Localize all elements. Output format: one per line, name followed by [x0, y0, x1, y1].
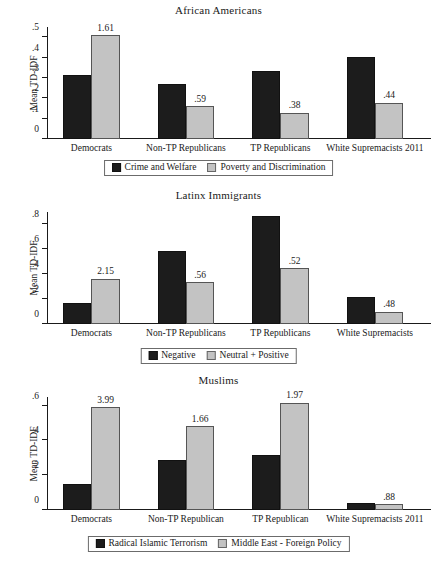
x-axis-tick-label: White Supremacists 2011 — [326, 515, 423, 525]
bar-series-1[interactable] — [186, 106, 214, 139]
bar-group: 1.97TP Republican — [236, 397, 331, 510]
bar-series-1[interactable] — [91, 279, 119, 324]
x-axis-tick-label: Non-TP Republican — [148, 515, 224, 525]
legend-1: Crime and Welfare Poverty and Discrimina… — [104, 160, 334, 176]
plot-area-3: Mean TD-IDF 0.2.4.6 3.99Democrats1.66Non… — [47, 397, 425, 510]
y-tick-label: .2 — [32, 461, 39, 471]
bar-group: 2.15Democrats — [47, 212, 142, 324]
chart-panel-muslims: Muslims Mean TD-IDF 0.2.4.6 3.99Democrat… — [0, 370, 437, 563]
legend-label-0: Crime and Welfare — [125, 163, 197, 173]
bar-group: .56Non-TP Republicans — [142, 212, 237, 324]
y-tick-label: 0 — [34, 496, 39, 506]
bar-value-annotation: 3.99 — [97, 396, 114, 406]
legend-2: Negative Neutral + Positive — [140, 348, 297, 364]
bar-value-annotation: .56 — [194, 271, 206, 281]
legend-label-0: Radical Islamic Terrorism — [108, 539, 207, 549]
x-axis-tick-label: Democrats — [71, 515, 112, 525]
bar-series-1[interactable] — [280, 268, 308, 324]
y-tick-label: .5 — [32, 23, 39, 33]
legend-swatch-dark-icon — [95, 539, 104, 548]
bar-value-annotation: .59 — [194, 95, 206, 105]
bar-series-0[interactable] — [252, 216, 280, 324]
bar-value-annotation: 2.15 — [97, 267, 114, 277]
y-tick-label: .8 — [32, 211, 39, 221]
bar-group: .38TP Republicans — [236, 27, 331, 139]
y-tick-label: .6 — [32, 392, 39, 402]
bar-series-0[interactable] — [63, 303, 91, 324]
chart-title-3: Muslims — [0, 374, 437, 386]
legend-item-1: Poverty and Discrimination — [207, 163, 325, 173]
bar-group: 1.66Non-TP Republican — [142, 397, 237, 510]
x-axis-tick-label: TP Republicans — [250, 144, 310, 154]
legend-swatch-light-icon — [207, 163, 216, 172]
bar-value-annotation: .44 — [383, 91, 395, 101]
bar-series-1[interactable] — [375, 504, 403, 510]
bar-group: 3.99Democrats — [47, 397, 142, 510]
legend-swatch-light-icon — [218, 539, 227, 548]
bar-series-1[interactable] — [375, 312, 403, 324]
x-axis-tick-label: Non-TP Republicans — [146, 329, 226, 339]
bar-series-0[interactable] — [252, 455, 280, 510]
legend-item-1: Middle East - Foreign Policy — [218, 539, 341, 549]
y-tick-label: 0 — [34, 310, 39, 320]
chart-panel-african-americans: African Americans Mean TD-IDF 0.1.2.3.4.… — [0, 0, 437, 185]
legend-swatch-dark-icon — [148, 351, 157, 360]
bar-series-0[interactable] — [347, 57, 375, 139]
legend-item-0: Radical Islamic Terrorism — [95, 539, 207, 549]
bar-series-1[interactable] — [375, 103, 403, 139]
x-axis-tick-label: Democrats — [71, 144, 112, 154]
legend-item-0: Negative — [148, 351, 195, 361]
bar-series-0[interactable] — [158, 84, 186, 139]
bar-series-0[interactable] — [158, 251, 186, 324]
y-tick-label: .4 — [32, 260, 39, 270]
bar-series-0[interactable] — [347, 503, 375, 510]
y-tick-label: .2 — [32, 285, 39, 295]
legend-label-0: Negative — [161, 351, 195, 361]
y-tick-label: .6 — [32, 236, 39, 246]
plot-area-1: Mean TD-IDF 0.1.2.3.4.5 1.61Democrats.59… — [47, 27, 425, 139]
bar-series-0[interactable] — [347, 297, 375, 324]
bar-group: .52TP Republicans — [236, 212, 331, 324]
chart-title-1: African Americans — [0, 4, 437, 16]
y-tick-label: .2 — [32, 85, 39, 95]
y-tick-label: 0 — [34, 125, 39, 135]
bar-series-1[interactable] — [91, 35, 119, 139]
plot-area-2: Mean TD-IDF 0.2.4.6.8 2.15Democrats.56No… — [47, 212, 425, 324]
bar-group: .48White Supremacists — [331, 212, 426, 324]
bar-series-1[interactable] — [186, 426, 214, 510]
legend-label-1: Neutral + Positive — [220, 351, 289, 361]
y-tick-label: .4 — [32, 427, 39, 437]
x-axis-tick-label: White Supremacists 2011 — [326, 144, 423, 154]
bar-series-1[interactable] — [280, 403, 308, 510]
y-tick-label: .3 — [32, 64, 39, 74]
legend-3: Radical Islamic Terrorism Middle East - … — [87, 536, 349, 552]
x-axis-tick-label: Democrats — [71, 329, 112, 339]
bar-value-annotation: 1.61 — [97, 24, 114, 34]
bar-group: 1.61Democrats — [47, 27, 142, 139]
x-axis-tick-label: TP Republican — [252, 515, 308, 525]
legend-swatch-dark-icon — [112, 163, 121, 172]
y-tick-label: .4 — [32, 44, 39, 54]
x-axis-tick-label: TP Republicans — [250, 329, 310, 339]
bar-value-annotation: 1.66 — [192, 415, 209, 425]
bar-series-1[interactable] — [91, 407, 119, 510]
bar-series-0[interactable] — [158, 460, 186, 510]
bar-series-0[interactable] — [63, 484, 91, 510]
bar-value-annotation: .88 — [383, 493, 395, 503]
legend-item-0: Crime and Welfare — [112, 163, 197, 173]
legend-label-1: Poverty and Discrimination — [220, 163, 325, 173]
bar-series-0[interactable] — [252, 71, 280, 139]
bar-series-0[interactable] — [63, 75, 91, 139]
chart-panel-latinx-immigrants: Latinx Immigrants Mean TD-IDF 0.2.4.6.8 … — [0, 185, 437, 370]
bar-series-1[interactable] — [280, 113, 308, 139]
y-tick-label: .1 — [32, 105, 39, 115]
bar-value-annotation: .38 — [289, 101, 301, 111]
x-axis-tick-label: White Supremacists — [337, 329, 413, 339]
legend-item-1: Neutral + Positive — [207, 351, 289, 361]
bar-series-1[interactable] — [186, 282, 214, 324]
bar-value-annotation: .48 — [383, 300, 395, 310]
bar-value-annotation: .52 — [289, 257, 301, 267]
legend-label-1: Middle East - Foreign Policy — [231, 539, 341, 549]
bar-group: .88White Supremacists 2011 — [331, 397, 426, 510]
bar-value-annotation: 1.97 — [286, 391, 303, 401]
